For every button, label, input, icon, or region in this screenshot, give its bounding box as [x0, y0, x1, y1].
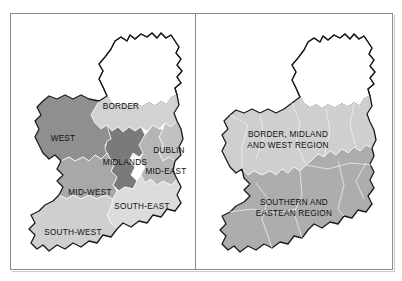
- panel-right-two-regions: BORDER, MIDLAND AND WEST REGION SOUTHERN…: [196, 13, 393, 270]
- region-northern-ireland[interactable]: [292, 34, 375, 109]
- panel-left-eight-regions: BORDER WEST DUBLIN MIDLANDS MID-EAST MID…: [11, 13, 195, 270]
- figure-root: BORDER WEST DUBLIN MIDLANDS MID-EAST MID…: [0, 0, 402, 281]
- region-northern-ireland[interactable]: [99, 33, 182, 108]
- region-mid-west[interactable]: [57, 153, 117, 199]
